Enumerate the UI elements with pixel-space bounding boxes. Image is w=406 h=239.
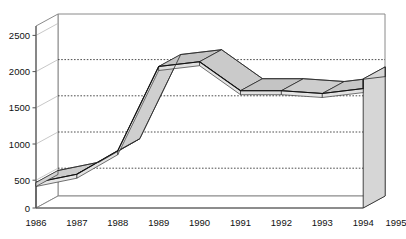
y-tick-label: 1000: [9, 139, 30, 150]
y-tick-label: 2000: [9, 66, 30, 77]
y-axis: [33, 26, 37, 208]
x-tick-label: 1992: [271, 217, 292, 228]
chart-container: 2500 2000 1500 1000 500 0: [0, 0, 406, 239]
y-tick-label: 0: [25, 203, 30, 214]
x-axis-labels: 1986 1987 1988 1989 1990 1991 1992 1993 …: [25, 217, 406, 228]
x-tick-label: 1990: [189, 217, 210, 228]
plot-floor: [36, 196, 385, 208]
y-tick-label: 2500: [9, 30, 30, 41]
y-axis-labels: 2500 2000 1500 1000 500 0: [9, 30, 30, 214]
ribbon-right-end: [363, 67, 385, 208]
x-tick-label: 1995: [385, 217, 406, 228]
y-tick-label: 500: [14, 175, 30, 186]
x-tick-label: 1987: [66, 217, 87, 228]
x-tick-label: 1991: [230, 217, 251, 228]
area-chart-3d: 2500 2000 1500 1000 500 0: [0, 0, 406, 239]
x-tick-label: 1993: [312, 217, 333, 228]
x-tick-label: 1988: [107, 217, 128, 228]
plot-back-wall: [58, 14, 385, 196]
x-tick-label: 1994: [353, 217, 374, 228]
ribbon-end-cap: [363, 67, 385, 208]
x-tick-label: 1986: [25, 217, 46, 228]
y-tick-label: 1500: [9, 102, 30, 113]
x-tick-label: 1989: [148, 217, 169, 228]
